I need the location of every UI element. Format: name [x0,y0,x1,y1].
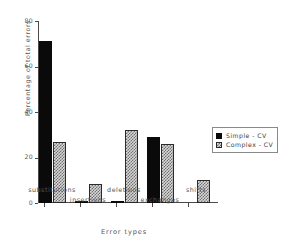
x-category-label: substitutions [28,186,76,194]
bar-chart-figure: Percentage of total errors 020406080 sub… [0,0,300,249]
y-tick-label: 80 [25,17,33,24]
y-tick-label: 40 [25,108,33,115]
y-tick-mark [35,158,39,159]
y-tick: 40 [12,112,38,113]
y-tick-mark [35,67,39,68]
x-tick-mark [44,203,45,207]
y-tick: 0 [12,203,38,204]
legend-item-simple: Simple - CV [216,131,273,140]
legend-item-complex: Complex - CV [216,140,273,149]
x-axis-title: Error types [0,228,248,236]
y-tick: 60 [12,67,38,68]
legend-label-simple: Simple - CV [226,132,267,139]
legend: Simple - CV Complex - CV [212,127,278,153]
legend-label-complex: Complex - CV [226,141,273,148]
x-category-label: insertions [70,196,106,204]
y-tick: 80 [12,21,38,22]
x-category-label: exchanges [141,196,180,204]
y-tick: 20 [12,158,38,159]
plot-area: 020406080 [38,21,218,203]
x-category-label: shifts [186,186,206,194]
x-tick-mark [116,203,117,207]
x-category-label: deletions [107,186,141,194]
x-tick-mark [188,203,189,207]
bar [111,201,124,203]
y-tick-label: 0 [29,199,33,206]
legend-swatch-simple-icon [216,133,222,139]
y-tick-mark [35,203,39,204]
y-tick-label: 20 [25,153,33,160]
y-tick-mark [35,21,39,22]
bar [161,144,174,203]
legend-swatch-complex-icon [216,142,222,148]
bar [147,137,160,203]
y-tick-label: 60 [25,62,33,69]
bar [39,41,52,203]
y-tick-mark [35,112,39,113]
